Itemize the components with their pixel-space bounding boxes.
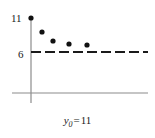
caption-subscript: 0: [69, 120, 73, 129]
figure-caption: y0=11: [0, 114, 155, 129]
data-point: [39, 29, 44, 34]
data-point: [28, 15, 33, 20]
figure-container: 11 6 y0=11: [0, 0, 155, 138]
caption-equals: =: [73, 114, 81, 126]
y-axis-tick-label-lower: 6: [18, 49, 24, 60]
caption-value: 11: [81, 114, 92, 126]
data-point: [84, 42, 89, 47]
data-point: [66, 41, 71, 46]
y-axis-tick-label-upper: 11: [11, 13, 22, 24]
data-point: [50, 38, 55, 43]
data-point-group: [28, 15, 89, 47]
